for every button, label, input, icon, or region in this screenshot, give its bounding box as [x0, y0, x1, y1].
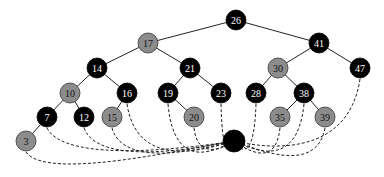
edge-26-17 — [148, 20, 236, 43]
sentinel-edge-39 — [234, 128, 325, 156]
node-38: 38 — [294, 83, 314, 103]
node-14: 14 — [87, 58, 107, 78]
node-label: 28 — [251, 88, 261, 99]
node-21: 21 — [180, 58, 200, 78]
node-label: 20 — [189, 112, 199, 123]
node-label: 41 — [314, 38, 324, 49]
node-19: 19 — [158, 83, 178, 103]
node-label: 14 — [92, 63, 102, 74]
node-28: 28 — [246, 83, 266, 103]
node-23: 23 — [211, 83, 231, 103]
node-26: 26 — [226, 10, 246, 30]
sentinel-edge-12 — [84, 128, 234, 152]
node-label: 35 — [275, 112, 285, 123]
node-41: 41 — [309, 33, 329, 53]
node-label: 39 — [320, 112, 330, 123]
node-label: 21 — [185, 63, 195, 74]
node-label: 17 — [143, 38, 153, 49]
sentinel-node — [223, 130, 245, 152]
red-black-tree-diagram: 26174114213047101619232838712152035393 — [0, 0, 384, 177]
node-label: 3 — [24, 136, 29, 147]
node-17: 17 — [138, 33, 158, 53]
node-label: 12 — [79, 112, 89, 123]
node-12: 12 — [74, 107, 94, 127]
node-39: 39 — [315, 107, 335, 127]
node-label: 7 — [45, 112, 50, 123]
node-label: 16 — [122, 88, 132, 99]
node-3: 3 — [16, 131, 36, 151]
node-label: 26 — [231, 15, 241, 26]
node-10: 10 — [60, 83, 80, 103]
sentinel-edge-7 — [47, 128, 234, 151]
node-label: 23 — [216, 88, 226, 99]
node-47: 47 — [350, 58, 370, 78]
node-15: 15 — [102, 107, 122, 127]
node-label: 30 — [273, 63, 283, 74]
node-label: 47 — [355, 63, 365, 74]
node-label: 38 — [299, 88, 309, 99]
sentinel-edge-15 — [112, 128, 234, 153]
node-16: 16 — [117, 83, 137, 103]
node-label: 19 — [163, 88, 173, 99]
node-30: 30 — [268, 58, 288, 78]
node-35: 35 — [270, 107, 290, 127]
node-7: 7 — [37, 107, 57, 127]
node-20: 20 — [184, 107, 204, 127]
node-label: 10 — [65, 88, 75, 99]
node-label: 15 — [107, 112, 117, 123]
edge-26-41 — [236, 20, 319, 43]
